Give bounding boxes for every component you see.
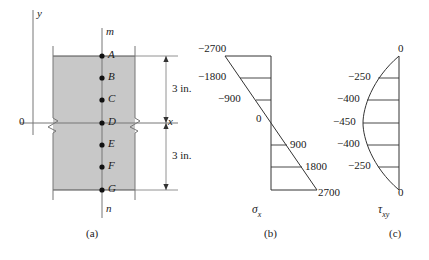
tauxy-value-f: −250 — [348, 160, 371, 171]
section-line-label-m: m — [106, 26, 114, 37]
figure-vector-layer — [0, 0, 429, 260]
point-label-b: B — [108, 71, 115, 82]
dimension-label-lower: 3 in. — [172, 150, 192, 161]
sigmax-axis-subscript: x — [258, 210, 262, 219]
point-label-e: E — [108, 138, 115, 149]
point-label-c: C — [108, 93, 115, 104]
tauxy-value-b: −250 — [348, 71, 371, 82]
dim-arrow-lower-bottom-icon — [163, 184, 168, 190]
point-marker-c — [99, 97, 104, 102]
tauxy-value-e: −400 — [337, 138, 360, 149]
section-line-label-n: n — [106, 203, 112, 214]
point-marker-g — [99, 187, 104, 192]
sigmax-value-c: −900 — [218, 93, 241, 104]
stress-distribution-figure: y x 0 m n A B C D E F G 3 in. 3 in. −270… — [0, 0, 429, 260]
sigmax-value-g: 2700 — [318, 187, 340, 198]
point-marker-a — [99, 53, 104, 58]
x-axis-label: x — [168, 116, 173, 127]
tauxy-value-c: −400 — [337, 93, 360, 104]
sigmax-value-a: −2700 — [198, 43, 226, 54]
point-marker-d — [99, 120, 104, 125]
tauxy-value-a: 0 — [398, 43, 404, 54]
point-marker-f — [99, 164, 104, 169]
dim-arrow-upper-top-icon — [163, 56, 168, 62]
y-axis-label: y — [37, 8, 42, 19]
sigmax-axis-label: σx — [252, 200, 261, 219]
tauxy-axis-label: τxy — [378, 200, 389, 219]
sigmax-value-f: 1800 — [305, 161, 327, 172]
panel-caption-c: (c) — [389, 228, 401, 239]
point-marker-b — [99, 75, 104, 80]
sigmax-value-b: −1800 — [198, 71, 226, 82]
sigmax-value-d: 0 — [256, 113, 262, 124]
tauxy-axis-subscript: xy — [382, 210, 389, 219]
tauxy-value-g: 0 — [398, 187, 404, 198]
point-marker-e — [99, 142, 104, 147]
panel-caption-b: (b) — [264, 228, 277, 239]
origin-label: 0 — [19, 116, 25, 127]
point-label-d: D — [108, 116, 116, 127]
point-label-a: A — [108, 49, 115, 60]
point-label-g: G — [108, 183, 116, 194]
panel-caption-a: (a) — [86, 228, 98, 239]
point-label-f: F — [108, 160, 115, 171]
dimension-label-upper: 3 in. — [172, 83, 192, 94]
tauxy-value-d: −450 — [333, 116, 356, 127]
sigmax-value-e: 900 — [290, 139, 307, 150]
